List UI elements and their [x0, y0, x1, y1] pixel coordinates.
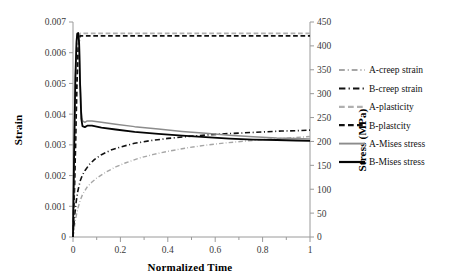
legend-label: B-Mises stress [369, 157, 425, 167]
x-axis-tick-label: 0.8 [257, 245, 269, 255]
y-axis-right-tick-label: 450 [317, 17, 332, 27]
y-axis-left-tick-label: 0 [61, 232, 66, 242]
y-axis-left-tick-label: 0.001 [45, 202, 67, 212]
legend-label: B-plastcity [369, 121, 411, 131]
y-axis-right-tick-label: 250 [317, 113, 332, 123]
legend-label: A-Mises stress [369, 139, 426, 149]
y-axis-left-tick-label: 0.007 [45, 17, 67, 27]
y-axis-left-title: Strain [12, 115, 24, 146]
x-axis-tick-label: 0.6 [209, 245, 221, 255]
y-axis-right-tick-label: 350 [317, 65, 332, 75]
y-axis-left-tick-label: 0.005 [45, 79, 67, 89]
x-axis-tick-label: 1 [308, 245, 313, 255]
y-axis-right-tick-label: 0 [317, 232, 322, 242]
y-axis-right-tick-label: 100 [317, 185, 332, 195]
y-axis-left-tick-label: 0.006 [45, 48, 67, 58]
legend-label: A-creep strain [369, 65, 423, 75]
y-axis-right-tick-label: 300 [317, 89, 332, 99]
x-axis-tick-label: 0.4 [162, 245, 174, 255]
legend-label: B-creep strain [369, 84, 423, 94]
x-axis-title: Normalized Time [148, 261, 233, 273]
y-axis-left-tick-label: 0.003 [45, 140, 67, 150]
y-axis-right-tick-label: 50 [317, 209, 327, 219]
legend-label: A-plasticity [369, 102, 414, 112]
y-axis-right-tick-label: 150 [317, 161, 332, 171]
y-axis-right-tick-label: 200 [317, 137, 332, 147]
x-axis-tick-label: 0.2 [114, 245, 126, 255]
x-axis-tick-label: 0 [71, 245, 76, 255]
chart-figure: 00.0010.0020.0030.0040.0050.0060.007 050… [0, 0, 475, 280]
y-axis-right-tick-label: 400 [317, 41, 332, 51]
y-axis-left-tick-label: 0.004 [45, 110, 67, 120]
y-axis-left-tick-label: 0.002 [45, 171, 67, 181]
strain-stress-line-chart: 00.0010.0020.0030.0040.0050.0060.007 050… [0, 0, 475, 280]
